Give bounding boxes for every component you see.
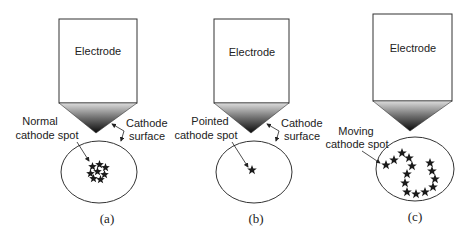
cathode-spot-diagram: Electrode Normal cathode spot Cathode su… xyxy=(0,0,471,239)
spot-label-c-line1: Moving xyxy=(338,125,373,137)
surface-arrow-b xyxy=(267,124,279,131)
caption-c: (c) xyxy=(408,209,422,224)
surface-label-b-line2: surface xyxy=(284,130,320,142)
surface-label-a-line2: surface xyxy=(129,130,165,142)
caption-b: (b) xyxy=(248,211,263,226)
spot-label-c-line2: cathode spot xyxy=(326,138,389,150)
electrode-label: Electrode xyxy=(229,46,275,58)
electrode-label: Electrode xyxy=(75,45,121,57)
caption-a: (a) xyxy=(100,211,114,226)
panel-a: Electrode Normal cathode spot Cathode su… xyxy=(16,19,168,226)
surface-label-b-line1: Cathode xyxy=(281,117,323,129)
spot-label-a-line2: cathode spot xyxy=(16,129,79,141)
surface-arrow-a xyxy=(112,124,124,131)
spot-arrow-c xyxy=(362,151,380,163)
panel-b: Electrode Pointed cathode spot Cathode s… xyxy=(175,19,323,226)
panel-c: Electrode Moving cathode spot (c) xyxy=(326,14,455,224)
spot-label-b-line2: cathode spot xyxy=(175,129,238,141)
electrode-a: Electrode xyxy=(59,19,137,133)
spot-label-a-line1: Normal xyxy=(22,115,57,127)
spot-label-b-line1: Pointed xyxy=(191,115,228,127)
electrode-label: Electrode xyxy=(390,42,436,54)
electrode-c: Electrode xyxy=(373,14,452,131)
surface-label-a-line1: Cathode xyxy=(126,117,168,129)
